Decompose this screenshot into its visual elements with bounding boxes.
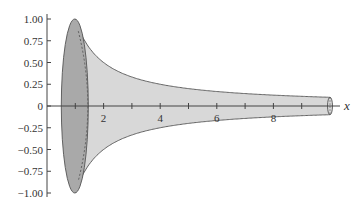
x-tick-label: 4 [157,112,163,124]
y-axis-ticks: 1.000.750.500.250−0.25−0.50−0.75−1.00 [18,13,51,199]
y-tick-label: 0 [38,100,44,112]
y-tick-label: 0.75 [24,35,44,47]
x-tick-label: 2 [101,112,107,124]
axes [47,14,340,197]
x-tick-label: 6 [214,112,220,124]
y-tick-label: −0.75 [18,165,44,177]
y-tick-label: 0.50 [24,57,44,69]
y-tick-label: 0.25 [24,78,44,90]
y-tick-label: −0.50 [18,144,44,156]
x-axis-label: x [343,98,350,113]
y-tick-label: 1.00 [24,13,44,25]
y-tick-label: −0.25 [18,122,44,134]
gabriels-horn-chart: 1.000.750.500.250−0.25−0.50−0.75−1.00 24… [0,0,363,213]
x-tick-label: 8 [271,112,277,124]
y-tick-label: −1.00 [18,187,44,199]
